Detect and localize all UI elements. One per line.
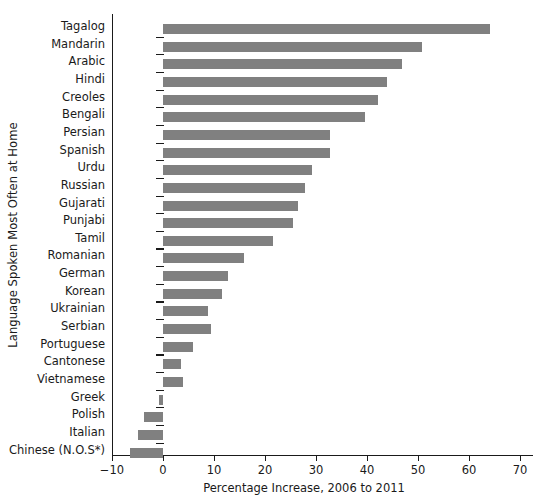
bar	[163, 342, 193, 352]
category-tick	[156, 213, 164, 214]
category-label: Portuguese	[40, 338, 105, 351]
category-tick	[156, 37, 164, 38]
category-label: Bengali	[62, 108, 105, 121]
category-tick	[156, 178, 164, 179]
category-label: Polish	[72, 408, 105, 421]
bar	[163, 324, 211, 334]
category-label: Tamil	[75, 232, 105, 245]
bar	[163, 236, 273, 246]
category-tick	[156, 266, 164, 267]
x-tick-label: 40	[360, 463, 375, 477]
bar	[163, 165, 312, 175]
x-tick	[112, 455, 113, 461]
bar	[144, 412, 163, 422]
bar	[163, 271, 228, 281]
category-tick	[156, 107, 164, 108]
bar	[163, 183, 305, 193]
x-axis-title-text: Percentage Increase, 2006 to 2011	[141, 481, 405, 495]
category-tick	[156, 72, 164, 73]
category-tick	[156, 390, 164, 391]
category-tick	[156, 196, 164, 197]
category-tick	[156, 443, 164, 444]
bar	[163, 95, 378, 105]
category-tick	[156, 301, 164, 302]
category-label: Urdu	[77, 161, 105, 174]
x-tick-label: −10	[100, 463, 124, 477]
plot-area: TagalogMandarinArabicHindiCreolesBengali…	[0, 0, 546, 503]
bar	[163, 289, 222, 299]
category-label: Romanian	[47, 249, 105, 262]
x-tick	[367, 455, 368, 461]
x-tick	[418, 455, 419, 461]
x-tick-label: 50	[411, 463, 426, 477]
category-label: Italian	[69, 426, 105, 439]
bar	[163, 59, 402, 69]
bar	[163, 218, 293, 228]
x-axis-title: Percentage Increase, 2006 to 2011	[0, 481, 546, 495]
category-tick	[156, 372, 164, 373]
bar	[163, 77, 387, 87]
x-tick	[520, 455, 521, 461]
category-label: Greek	[71, 391, 105, 404]
category-label: Tagalog	[61, 20, 105, 33]
category-tick	[156, 354, 164, 355]
bar	[163, 24, 490, 34]
category-tick	[156, 284, 164, 285]
category-label: Creoles	[62, 91, 105, 104]
x-tick-label: 10	[207, 463, 222, 477]
bar	[163, 112, 365, 122]
bar	[163, 359, 181, 369]
category-label: Persian	[63, 126, 105, 139]
category-label: Cantonese	[44, 355, 105, 368]
language-percentage-increase-chart: Language Spoken Most Often at Home Tagal…	[0, 0, 546, 503]
x-tick-label: 20	[258, 463, 273, 477]
category-tick	[156, 319, 164, 320]
category-tick	[156, 54, 164, 55]
category-label: Punjabi	[63, 214, 105, 227]
category-label: German	[59, 267, 105, 280]
category-label: Hindi	[75, 73, 105, 86]
x-tick	[469, 455, 470, 461]
category-label: Spanish	[60, 144, 105, 157]
bar	[163, 253, 244, 263]
category-tick	[156, 125, 164, 126]
bar	[163, 130, 330, 140]
bar	[163, 306, 208, 316]
x-tick	[214, 455, 215, 461]
x-tick	[265, 455, 266, 461]
x-tick	[163, 455, 164, 461]
bar	[163, 377, 183, 387]
category-label: Chinese (N.O.S*)	[9, 444, 105, 457]
x-tick-label: 0	[159, 463, 166, 477]
bar	[159, 395, 163, 405]
x-tick	[316, 455, 317, 461]
x-tick-label: 70	[513, 463, 528, 477]
category-tick	[156, 90, 164, 91]
bar	[130, 448, 163, 458]
bar	[163, 201, 298, 211]
category-label: Korean	[65, 285, 105, 298]
bar-row: Chinese (N.O.S*)	[0, 443, 546, 464]
category-label: Russian	[61, 179, 105, 192]
bar	[163, 148, 330, 158]
category-label: Serbian	[61, 320, 105, 333]
category-tick	[156, 231, 164, 232]
category-tick	[156, 425, 164, 426]
category-label: Ukrainian	[50, 302, 105, 315]
category-tick	[156, 160, 164, 161]
bar	[163, 42, 422, 52]
category-tick	[156, 248, 164, 249]
x-tick-label: 30	[309, 463, 324, 477]
category-tick	[156, 143, 164, 144]
category-label: Gujarati	[59, 197, 105, 210]
x-tick-label: 60	[462, 463, 477, 477]
category-tick	[156, 337, 164, 338]
category-label: Mandarin	[51, 38, 105, 51]
category-label: Arabic	[69, 55, 105, 68]
bar	[138, 430, 163, 440]
category-tick	[156, 407, 164, 408]
category-label: Vietnamese	[37, 373, 105, 386]
